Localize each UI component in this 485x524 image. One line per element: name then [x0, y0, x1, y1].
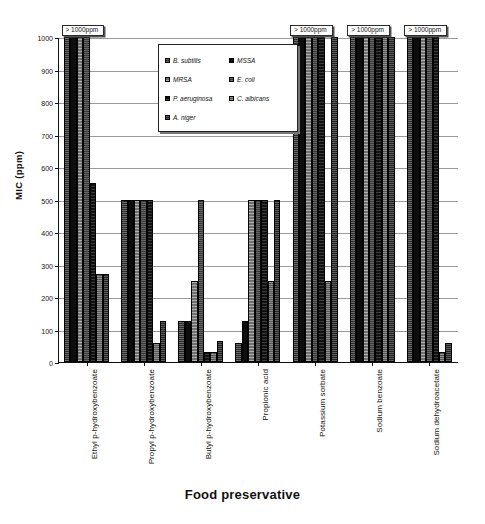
legend-swatch-icon: [165, 77, 170, 82]
x-tick-label: Butyl p-hydroxybenzoate: [204, 369, 213, 459]
bar: [160, 321, 166, 362]
legend-item: MSSA: [229, 51, 293, 70]
legend-label: C. albicans: [237, 95, 269, 102]
legend-label: B. subtilis: [173, 57, 201, 64]
legend-item: E. coli: [229, 70, 293, 89]
y-tick-label: 1000: [37, 35, 53, 42]
y-tick-label: 300: [41, 262, 53, 269]
legend-swatch-icon: [229, 96, 234, 101]
bar: [217, 341, 223, 362]
legend-item: A. niger: [165, 108, 229, 127]
y-tick-mark: [55, 103, 59, 104]
y-axis-title: MIC (ppm): [13, 151, 24, 200]
x-tick-label: Propyl p-hydroxybenzoate: [147, 369, 156, 464]
x-tick-mark: [258, 362, 259, 366]
value-annotation: > 1000ppm: [290, 25, 333, 36]
y-tick-label: 700: [41, 132, 53, 139]
y-tick-label: 600: [41, 165, 53, 172]
x-tick-label: Potassium sorbate: [318, 369, 327, 437]
legend-item: C. albicans: [229, 89, 293, 108]
bar: [274, 200, 280, 363]
legend-item: B. subtilis: [165, 51, 229, 70]
x-tick-mark: [87, 362, 88, 366]
y-tick-label: 400: [41, 230, 53, 237]
y-tick-mark: [55, 201, 59, 202]
x-tick-label: Ethyl p-hydroxybenzoate: [90, 369, 99, 459]
y-tick-label: 0: [49, 360, 53, 367]
x-tick-label: Propionic acid: [261, 369, 270, 421]
value-annotation: > 1000ppm: [404, 25, 447, 36]
y-tick-mark: [55, 71, 59, 72]
y-tick-mark: [55, 363, 59, 364]
legend-item: MRSA: [165, 70, 229, 89]
y-tick-label: 900: [41, 67, 53, 74]
y-tick-mark: [55, 233, 59, 234]
y-tick-mark: [55, 168, 59, 169]
chart-legend: B. subtilisMSSAMRSAE. coliP. aeruginosaC…: [158, 44, 298, 132]
y-tick-label: 200: [41, 295, 53, 302]
y-tick-mark: [55, 331, 59, 332]
y-tick-label: 800: [41, 100, 53, 107]
bar: [331, 37, 337, 362]
legend-swatch-icon: [165, 96, 170, 101]
legend-label: P. aeruginosa: [173, 95, 212, 102]
y-tick-mark: [55, 38, 59, 39]
legend-label: A. niger: [173, 114, 195, 121]
x-tick-mark: [144, 362, 145, 366]
x-tick-mark: [315, 362, 316, 366]
bar: [433, 37, 439, 362]
legend-swatch-icon: [165, 115, 170, 120]
bar-group: [64, 38, 109, 362]
legend-label: MRSA: [173, 76, 192, 83]
x-tick-mark: [372, 362, 373, 366]
legend-label: E. coli: [237, 76, 255, 83]
x-tick-mark: [201, 362, 202, 366]
legend-swatch-icon: [229, 58, 234, 63]
y-tick-mark: [55, 266, 59, 267]
legend-item: P. aeruginosa: [165, 89, 229, 108]
legend-label: MSSA: [237, 57, 255, 64]
bar: [198, 200, 204, 363]
value-annotation: > 1000ppm: [62, 25, 105, 36]
y-tick-mark: [55, 298, 59, 299]
y-tick-mark: [55, 136, 59, 137]
bar-group: [407, 38, 452, 362]
bar: [445, 343, 451, 363]
bar: [388, 37, 394, 362]
bar-group: [293, 38, 338, 362]
bar: [103, 274, 109, 362]
x-tick-mark: [429, 362, 430, 366]
bar: [147, 200, 153, 363]
legend-swatch-icon: [165, 58, 170, 63]
chart-container: MIC (ppm) 010020030040050060070080090010…: [0, 0, 485, 524]
bar-group: [350, 38, 395, 362]
y-tick-label: 500: [41, 197, 53, 204]
value-annotation: > 1000ppm: [347, 25, 390, 36]
x-axis-title: Food preservative: [0, 487, 485, 502]
y-tick-label: 100: [41, 327, 53, 334]
x-tick-label: Sodium benzoate: [375, 369, 384, 433]
x-tick-label: Sodium dehydroacetate: [432, 369, 441, 456]
legend-swatch-icon: [229, 77, 234, 82]
